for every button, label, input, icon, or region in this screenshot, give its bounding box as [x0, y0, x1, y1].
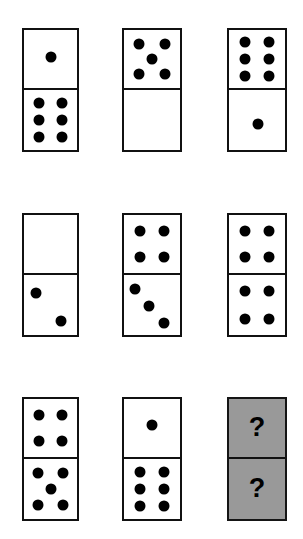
domino-r2c3-bottom-pip-2: [264, 286, 275, 297]
domino-r2c3-bottom-pip-3: [239, 313, 250, 324]
domino-r3c3-top-question-mark: ?: [249, 414, 266, 441]
domino-r3c1-top-pip-2: [57, 409, 68, 420]
domino-r3c2-bottom-pip-3: [134, 484, 145, 495]
domino-r1c3: [227, 28, 287, 152]
domino-r2c3-bottom-half: [229, 275, 285, 335]
domino-r1c3-top-pip-3: [239, 54, 250, 65]
domino-r3c1-bottom-pip-2: [57, 468, 68, 479]
domino-r3c2-bottom-pip-4: [159, 484, 170, 495]
domino-r2c3-bottom-pip-4: [264, 313, 275, 324]
domino-r2c1-bottom-half: [24, 275, 77, 335]
domino-r2c2-top-pip-4: [159, 252, 170, 263]
domino-r2c1-bottom-pip-1: [31, 288, 42, 299]
domino-r2c2-bottom-pip-2: [143, 301, 154, 312]
domino-r2c3-top-pip-3: [239, 252, 250, 263]
domino-r3c1-top-half: [24, 399, 77, 459]
domino-r1c3-top-pip-6: [264, 70, 275, 81]
domino-r1c3-top-pip-5: [239, 70, 250, 81]
domino-r3c2-bottom-pip-6: [159, 501, 170, 512]
domino-r3c1-bottom-pip-4: [33, 499, 44, 510]
domino-puzzle-grid: ??: [0, 0, 303, 539]
domino-r3c1-bottom-half: [24, 459, 77, 519]
domino-r1c1-bottom-pip-3: [33, 115, 44, 126]
domino-r2c1-top-half: [24, 215, 77, 275]
domino-r2c1-bottom-pip-2: [56, 316, 67, 327]
domino-r1c2-top-pip-3: [147, 54, 158, 65]
domino-r3c1-bottom-pip-3: [45, 484, 56, 495]
domino-r1c1-bottom-pip-4: [57, 115, 68, 126]
domino-r2c3: [227, 213, 287, 337]
domino-r2c2: [122, 213, 182, 337]
domino-r3c3-bottom-half: ?: [229, 459, 285, 519]
domino-r2c2-bottom-pip-3: [159, 318, 170, 329]
domino-r1c3-top-pip-4: [264, 54, 275, 65]
domino-r2c2-bottom-pip-1: [130, 283, 141, 294]
domino-r1c1: [22, 28, 79, 152]
domino-r3c2-bottom-pip-5: [134, 501, 145, 512]
domino-r1c3-bottom-pip-1: [253, 118, 264, 129]
domino-r1c2: [122, 28, 182, 152]
domino-r3c2-top-half: [124, 399, 180, 459]
domino-r1c3-top-half: [229, 30, 285, 90]
domino-r3c1-bottom-pip-1: [33, 468, 44, 479]
domino-r2c2-top-pip-2: [159, 225, 170, 236]
domino-r1c2-top-half: [124, 30, 180, 90]
domino-r2c2-bottom-half: [124, 275, 180, 335]
domino-r3c2-bottom-pip-2: [159, 466, 170, 477]
domino-r2c2-top-pip-1: [134, 225, 145, 236]
domino-r3c3[interactable]: ??: [227, 397, 287, 521]
domino-r3c1: [22, 397, 79, 521]
domino-r3c1-bottom-pip-5: [57, 499, 68, 510]
domino-r2c3-top-pip-4: [264, 252, 275, 263]
domino-r2c2-top-pip-3: [134, 252, 145, 263]
domino-r1c2-bottom-half: [124, 90, 180, 150]
domino-r1c2-top-pip-5: [159, 69, 170, 80]
domino-r1c2-top-pip-2: [159, 38, 170, 49]
domino-r1c1-bottom-pip-5: [33, 132, 44, 143]
domino-r1c3-top-pip-1: [239, 37, 250, 48]
domino-r1c3-bottom-half: [229, 90, 285, 150]
domino-r3c2-bottom-pip-1: [134, 466, 145, 477]
domino-r1c1-bottom-pip-2: [57, 97, 68, 108]
domino-r3c1-top-pip-4: [57, 436, 68, 447]
domino-r2c3-bottom-pip-1: [239, 286, 250, 297]
domino-r3c2-bottom-half: [124, 459, 180, 519]
domino-r1c2-top-pip-4: [134, 69, 145, 80]
domino-r3c3-top-half: ?: [229, 399, 285, 459]
domino-r3c1-top-pip-3: [33, 436, 44, 447]
domino-r3c1-top-pip-1: [33, 409, 44, 420]
domino-r2c2-top-half: [124, 215, 180, 275]
domino-r2c3-top-half: [229, 215, 285, 275]
domino-r2c1: [22, 213, 79, 337]
domino-r3c2-top-pip-1: [147, 419, 158, 430]
domino-r1c1-top-half: [24, 30, 77, 90]
domino-r3c3-bottom-question-mark: ?: [249, 475, 266, 502]
domino-r1c3-top-pip-2: [264, 37, 275, 48]
domino-r1c1-bottom-pip-6: [57, 132, 68, 143]
domino-r3c2: [122, 397, 182, 521]
domino-r1c1-bottom-pip-1: [33, 97, 44, 108]
domino-r1c1-bottom-half: [24, 90, 77, 150]
domino-r2c3-top-pip-1: [239, 225, 250, 236]
domino-r1c1-top-pip-1: [45, 51, 56, 62]
domino-r2c3-top-pip-2: [264, 225, 275, 236]
domino-r1c2-top-pip-1: [134, 38, 145, 49]
